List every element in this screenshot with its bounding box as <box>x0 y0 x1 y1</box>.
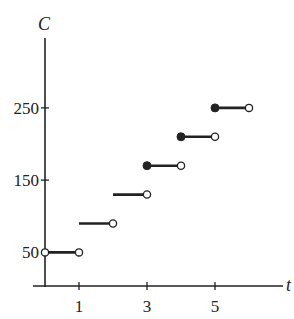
step-chart: 13550150250 C t <box>0 0 294 319</box>
step-segments <box>41 104 252 256</box>
open-endpoint-right <box>211 133 218 140</box>
open-endpoint-right <box>245 104 252 111</box>
closed-endpoint-left <box>211 104 219 112</box>
open-endpoint-right <box>143 191 150 198</box>
open-endpoint-right <box>177 162 184 169</box>
open-endpoint-left <box>41 249 48 256</box>
y-tick-label: 50 <box>22 243 39 262</box>
axes <box>33 38 283 287</box>
x-tick-label: 5 <box>211 297 220 316</box>
x-axis-label: t <box>286 275 292 295</box>
x-tick-label: 1 <box>75 297 84 316</box>
x-tick-label: 3 <box>143 297 152 316</box>
closed-endpoint-left <box>177 133 185 141</box>
closed-endpoint-left <box>143 162 151 170</box>
y-tick-label: 250 <box>14 99 40 118</box>
y-axis-label: C <box>38 14 51 34</box>
open-endpoint-right <box>109 220 116 227</box>
y-tick-label: 150 <box>14 171 40 190</box>
open-endpoint-right <box>75 249 82 256</box>
